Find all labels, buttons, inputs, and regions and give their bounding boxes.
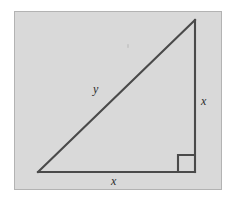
label-hypotenuse-y: y bbox=[93, 83, 98, 95]
scan-artifact-speck bbox=[127, 44, 129, 48]
figure-screenshot: y x x bbox=[0, 0, 236, 202]
right-angle-marker-icon bbox=[178, 155, 195, 172]
label-horizontal-leg-x: x bbox=[111, 175, 116, 187]
hypotenuse-line bbox=[38, 20, 195, 172]
label-vertical-leg-x: x bbox=[201, 95, 206, 107]
